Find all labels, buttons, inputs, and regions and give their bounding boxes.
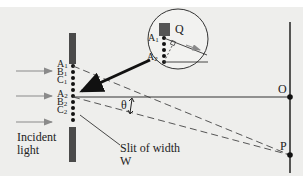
ray-A2-P (73, 97, 290, 155)
label-O: O (278, 83, 287, 95)
label-Q: Q (175, 23, 184, 35)
label-P: P (280, 140, 287, 152)
point-O (287, 94, 293, 100)
theta-arrow (130, 99, 132, 113)
slit-width-label: Slit of widthW (120, 142, 180, 167)
inset-label-A2: A2 (147, 52, 158, 63)
label-theta: θ (121, 99, 127, 111)
barrier-top (69, 33, 76, 64)
inset-label-A1: A1 (148, 33, 159, 44)
incident-light-label: Incidentlight (17, 131, 56, 156)
incident-arrows (16, 71, 52, 122)
label-C1: C1 (57, 75, 67, 86)
point-P (287, 152, 293, 158)
barrier-bottom (69, 127, 76, 162)
label-C2: C2 (57, 105, 67, 116)
slit-dots (71, 64, 75, 122)
slit-pointer (80, 115, 120, 145)
inset-pointer (82, 60, 150, 91)
